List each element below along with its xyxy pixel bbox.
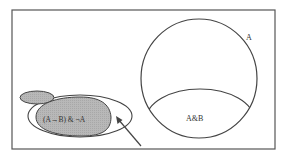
- venn-diagram: A A&B (A→B) & ¬A: [0, 0, 289, 158]
- label-intersection-ab: A&B: [186, 114, 203, 123]
- label-set-a: A: [246, 33, 252, 42]
- label-shaded-region: (A→B) & ¬A: [43, 115, 86, 124]
